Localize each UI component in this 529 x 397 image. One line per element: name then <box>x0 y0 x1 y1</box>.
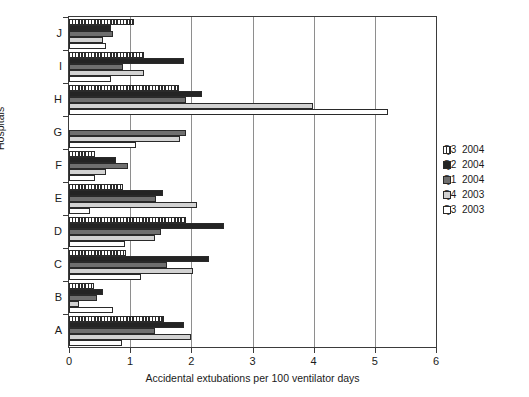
bar-group-c <box>69 248 436 281</box>
bar-group-j <box>69 17 436 50</box>
legend-year-label: 2003 <box>462 204 484 215</box>
x-tick <box>130 348 131 353</box>
legend-year-label: 2004 <box>462 159 484 170</box>
y-axis-title: Hospitals <box>0 107 6 150</box>
legend-swatch-icon <box>443 191 451 199</box>
y-tick <box>63 83 68 84</box>
bar-j-q3-2003 <box>69 43 106 49</box>
x-tick-label: 3 <box>241 355 265 367</box>
legend-item-q2-2004[interactable]: Q22004 <box>443 157 527 172</box>
bar-g-q3-2003 <box>69 142 136 148</box>
y-tick <box>63 281 68 282</box>
legend-item-q3-2003[interactable]: Q32003 <box>443 202 527 217</box>
y-tick-label-h: H <box>42 93 62 105</box>
legend-item-q3-2004[interactable]: Q32004 <box>443 142 527 157</box>
bar-group-d <box>69 215 436 248</box>
bar-f-q3-2003 <box>69 175 95 181</box>
bar-i-q3-2003 <box>69 76 111 82</box>
y-tick <box>63 314 68 315</box>
y-tick-label-a: A <box>42 324 62 336</box>
x-tick <box>375 348 376 353</box>
x-tick <box>253 348 254 353</box>
x-tick-label: 2 <box>179 355 203 367</box>
legend-year-label: 2004 <box>462 144 484 155</box>
x-tick <box>191 348 192 353</box>
bar-a-q3-2003 <box>69 340 122 346</box>
legend-swatch-icon <box>443 161 451 169</box>
chart-figure: 0123456 ABCDEFGHIJ Accidental extubation… <box>0 0 529 397</box>
x-tick-label: 5 <box>363 355 387 367</box>
y-tick-label-f: F <box>42 159 62 171</box>
y-tick <box>63 50 68 51</box>
bar-group-h <box>69 83 436 116</box>
legend-swatch-icon <box>443 176 451 184</box>
legend-swatch-icon <box>443 146 451 154</box>
bar-group-f <box>69 149 436 182</box>
x-tick-label: 1 <box>118 355 142 367</box>
y-tick-label-g: G <box>42 126 62 138</box>
x-tick <box>314 348 315 353</box>
y-tick-label-i: I <box>42 60 62 72</box>
x-tick-label: 4 <box>302 355 326 367</box>
y-tick <box>63 17 68 18</box>
y-tick-label-b: B <box>42 291 62 303</box>
bar-b-q3-2003 <box>69 307 113 313</box>
y-tick-label-d: D <box>42 225 62 237</box>
y-tick <box>63 182 68 183</box>
legend-item-q4-2003[interactable]: Q42003 <box>443 187 527 202</box>
legend-year-label: 2003 <box>462 189 484 200</box>
y-tick <box>63 116 68 117</box>
bar-group-b <box>69 281 436 314</box>
y-tick-label-e: E <box>42 192 62 204</box>
y-tick-label-j: J <box>42 27 62 39</box>
bar-e-q3-2003 <box>69 208 90 214</box>
bar-d-q3-2003 <box>69 241 125 247</box>
bar-group-i <box>69 50 436 83</box>
bar-group-g <box>69 116 436 149</box>
bars-layer <box>69 17 436 347</box>
x-tick-label: 6 <box>424 355 448 367</box>
legend-item-q1-2004[interactable]: Q12004 <box>443 172 527 187</box>
x-tick <box>69 348 70 353</box>
y-tick <box>63 248 68 249</box>
y-tick <box>63 149 68 150</box>
bar-h-q3-2003 <box>69 109 388 115</box>
x-axis-title: Accidental extubations per 100 ventilato… <box>68 372 437 384</box>
y-tick <box>63 215 68 216</box>
bar-group-a <box>69 314 436 347</box>
legend-swatch-icon <box>443 206 451 214</box>
x-tick-label: 0 <box>57 355 81 367</box>
legend-year-label: 2004 <box>462 174 484 185</box>
y-tick-label-c: C <box>42 258 62 270</box>
bar-group-e <box>69 182 436 215</box>
bar-c-q3-2003 <box>69 274 141 280</box>
legend: Q32004Q22004Q12004Q42003Q32003 <box>443 142 527 217</box>
x-tick <box>436 348 437 353</box>
